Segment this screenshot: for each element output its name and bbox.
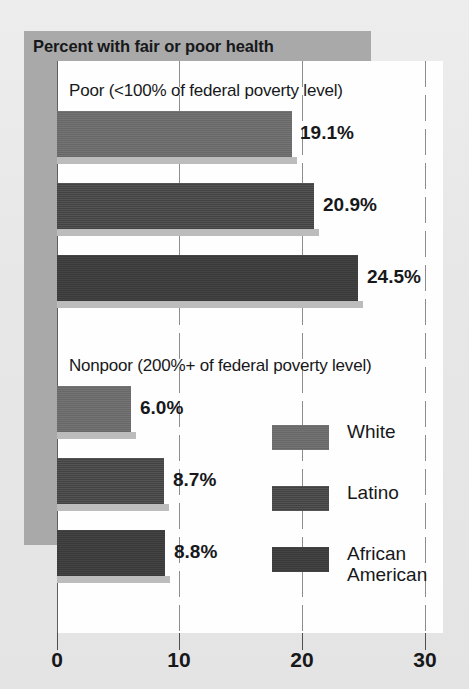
bar-value-label: 8.7%	[173, 469, 216, 491]
bar-shadow	[57, 576, 170, 583]
legend-swatch-african-american	[272, 547, 329, 572]
bar-latino-nonpoor[interactable]	[57, 458, 164, 504]
legend-item-white: White	[272, 425, 396, 450]
bar-value-label: 8.8%	[174, 541, 217, 563]
bar-african-american-nonpoor[interactable]	[57, 530, 165, 576]
legend-swatch-latino	[272, 486, 329, 511]
tick-label-0: 0	[51, 648, 63, 672]
tick-label-30: 30	[413, 648, 436, 672]
bar-value-label: 19.1%	[300, 122, 354, 144]
tick-label-10: 10	[167, 648, 190, 672]
left-decorative-band	[24, 60, 57, 545]
bar-latino-poor[interactable]	[57, 183, 314, 229]
bar-value-label: 24.5%	[367, 266, 421, 288]
legend-label: Latino	[347, 483, 399, 504]
chart-title: Percent with fair or poor health	[24, 37, 274, 56]
legend-item-african-american: African American	[272, 547, 427, 585]
bar-white-nonpoor[interactable]	[57, 386, 131, 432]
tick-label-20: 20	[290, 648, 313, 672]
chart-title-banner: Percent with fair or poor health	[24, 31, 371, 61]
bar-shadow	[57, 432, 136, 439]
plot-area: Poor (<100% of federal poverty level) 19…	[57, 61, 443, 633]
bar-shadow	[57, 157, 297, 164]
legend-label: White	[347, 422, 396, 443]
legend-item-latino: Latino	[272, 486, 399, 511]
legend-swatch-white	[272, 425, 329, 450]
bar-white-poor[interactable]	[57, 111, 292, 157]
bar-shadow	[57, 301, 363, 308]
bar-african-american-poor[interactable]	[57, 255, 358, 301]
section-label-nonpoor: Nonpoor (200%+ of federal poverty level)	[69, 356, 371, 376]
bar-value-label: 6.0%	[140, 397, 183, 419]
bar-shadow	[57, 229, 319, 236]
legend-label: African American	[347, 544, 427, 585]
bar-value-label: 20.9%	[323, 194, 377, 216]
section-label-poor: Poor (<100% of federal poverty level)	[69, 81, 343, 101]
bar-shadow	[57, 504, 169, 511]
